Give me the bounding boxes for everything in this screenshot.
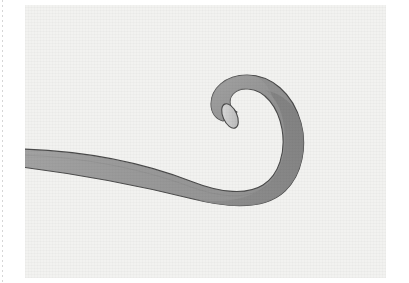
figure-root: A flat gray ribbon entering from the lef… bbox=[0, 0, 409, 283]
ribbon-band-body bbox=[25, 75, 304, 206]
illustration-canvas: A flat gray ribbon entering from the lef… bbox=[25, 5, 386, 278]
curled-ribbon-drawing bbox=[25, 5, 386, 278]
margin-dotted-guide bbox=[2, 0, 3, 283]
